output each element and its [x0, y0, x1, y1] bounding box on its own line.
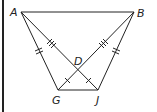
geometry-figure: A B D G J [0, 0, 157, 112]
point-label-A: A [9, 6, 18, 19]
point-label-B: B [137, 7, 145, 20]
segment-BJ [98, 12, 134, 90]
segment-BG [58, 12, 134, 90]
segment-AG [21, 12, 58, 90]
segment-AJ [21, 12, 98, 90]
point-label-G: G [52, 94, 61, 107]
point-label-D: D [74, 55, 82, 68]
point-label-J: J [94, 94, 99, 107]
